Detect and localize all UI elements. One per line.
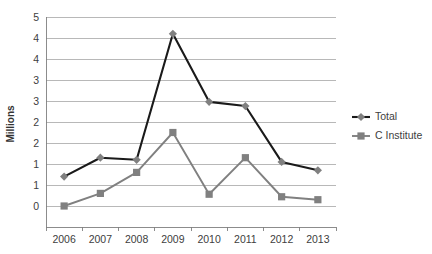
data-point-marker bbox=[97, 190, 104, 197]
data-point-marker bbox=[314, 166, 322, 174]
y-tick-label: 2 bbox=[33, 116, 39, 128]
x-tick-label: 2011 bbox=[234, 233, 257, 245]
x-axis-tick-labels: 20062007200820092010201120122013 bbox=[52, 233, 329, 245]
y-tick-label: 3 bbox=[33, 95, 39, 107]
x-tick-label: 2006 bbox=[52, 233, 76, 245]
x-tick-label: 2012 bbox=[270, 233, 294, 245]
y-tick-label: 0 bbox=[33, 200, 39, 212]
legend-marker bbox=[357, 132, 364, 139]
data-point-marker bbox=[242, 154, 249, 161]
y-tick-label: 4 bbox=[33, 32, 39, 44]
data-point-marker bbox=[61, 202, 68, 209]
y-tick-label: 2 bbox=[33, 137, 39, 149]
y-tick-label: 4 bbox=[33, 53, 39, 65]
data-point-marker bbox=[60, 173, 68, 181]
x-axis-tickmarks bbox=[46, 227, 336, 231]
y-tick-label: 1 bbox=[33, 179, 39, 191]
legend-label: Total bbox=[375, 110, 397, 122]
series-line-total bbox=[64, 34, 318, 177]
data-point-marker bbox=[133, 156, 141, 164]
data-point-marker bbox=[133, 169, 140, 176]
x-tick-label: 2009 bbox=[161, 233, 185, 245]
series-markers bbox=[60, 30, 322, 210]
y-tick-label: 5 bbox=[33, 11, 39, 23]
data-point-marker bbox=[278, 193, 285, 200]
data-point-marker bbox=[96, 154, 104, 162]
data-point-marker bbox=[169, 129, 176, 136]
x-tick-label: 2008 bbox=[125, 233, 149, 245]
data-point-marker bbox=[169, 30, 177, 38]
gridlines bbox=[46, 17, 336, 206]
legend-item-total[interactable]: Total bbox=[352, 110, 397, 122]
legend-marker bbox=[357, 113, 365, 121]
chart-container: 5443322110 20062007200820092010201120122… bbox=[0, 0, 432, 254]
legend-item-c-institute[interactable]: C Institute bbox=[352, 129, 422, 141]
y-axis-title: Millions bbox=[5, 105, 16, 143]
data-point-marker bbox=[206, 191, 213, 198]
x-tick-label: 2010 bbox=[197, 233, 221, 245]
data-point-marker bbox=[314, 196, 321, 203]
x-tick-label: 2013 bbox=[306, 233, 330, 245]
x-tick-label: 2007 bbox=[89, 233, 113, 245]
data-point-marker bbox=[205, 98, 213, 106]
chart-legend: TotalC Institute bbox=[352, 110, 422, 141]
y-tick-label: 3 bbox=[33, 74, 39, 86]
line-chart: 5443322110 20062007200820092010201120122… bbox=[0, 0, 432, 254]
legend-label: C Institute bbox=[375, 129, 422, 141]
series-lines bbox=[64, 34, 318, 206]
y-axis-tick-labels: 5443322110 bbox=[33, 11, 39, 212]
y-tick-label: 1 bbox=[33, 158, 39, 170]
